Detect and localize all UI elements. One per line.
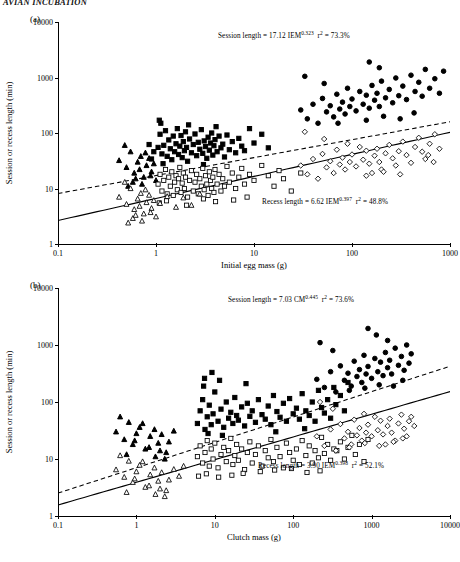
scatter-layer-b xyxy=(58,288,450,516)
recess-equation-a: Recess length = 6.62 IEM0.397 r2 = 48.8% xyxy=(262,196,388,206)
x-axis-line xyxy=(58,516,450,517)
y-tick-label: 1 xyxy=(24,240,53,249)
x-tick xyxy=(450,515,451,519)
x-tick-label: 0.1 xyxy=(53,521,63,530)
x-tick-label: 100 xyxy=(346,249,358,258)
session-equation-a: Session length = 17.12 IEM0.323 r2 = 73.… xyxy=(218,30,350,40)
x-tick-label: 1 xyxy=(154,249,158,258)
x-tick-label: 100 xyxy=(287,521,299,530)
chart-panel-a: (a) 1101001000100000.11101001000Session … xyxy=(0,14,458,280)
y-tick-label: 100 xyxy=(24,398,53,407)
y-tick-label: 1000 xyxy=(24,73,53,82)
y-tick-label: 10000 xyxy=(24,284,53,293)
series-session-filled-square xyxy=(147,118,270,167)
x-tick-label: 10 xyxy=(250,249,258,258)
y-tick-label: 10000 xyxy=(24,18,53,27)
session-equation-b: Session length = 7.03 CM0.445 r2 = 73.6% xyxy=(228,294,354,304)
scatter-layer-a xyxy=(58,22,450,244)
series-session-filled-circle xyxy=(315,326,414,394)
chart-panel-b: (b) 1101001000100000.1110100100010000Ses… xyxy=(0,280,458,562)
x-tick-label: 10 xyxy=(211,521,219,530)
series-session-filled-circle xyxy=(298,60,445,126)
y-tick-label: 10 xyxy=(24,184,53,193)
series-recess-open-triangle xyxy=(114,453,187,499)
y-axis-title: Session or recess length (min) xyxy=(4,82,14,184)
y-tick-label: 1000 xyxy=(24,341,53,350)
series-recess-open-diamond xyxy=(298,129,442,181)
y-axis-title: Session or recess length (min) xyxy=(4,351,14,453)
y-tick-label: 10 xyxy=(24,455,53,464)
y-tick-label: 100 xyxy=(24,129,53,138)
running-head: AVIAN INCUBATION xyxy=(3,0,87,7)
y-tick-label: 1 xyxy=(24,512,53,521)
x-tick xyxy=(450,243,451,247)
x-axis-title: Clutch mass (g) xyxy=(227,532,281,542)
x-tick-label: 1000 xyxy=(442,249,458,258)
x-tick-label: 10000 xyxy=(440,521,460,530)
x-tick-label: 1 xyxy=(134,521,138,530)
x-tick-label: 1000 xyxy=(364,521,380,530)
x-axis-title: Initial egg mass (g) xyxy=(221,260,287,270)
recess-equation-b: Recess length = 3.90 IEM0.398 r2 = 52.1% xyxy=(258,460,384,470)
x-tick-label: 0.1 xyxy=(53,249,63,258)
series-session-filled-triangle xyxy=(114,414,177,461)
